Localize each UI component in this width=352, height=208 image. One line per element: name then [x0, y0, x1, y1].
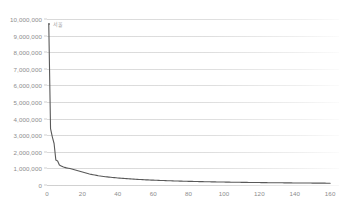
x-axis-tick-label: 40 — [114, 190, 121, 197]
y-axis-tick-label: 6,000,000 — [14, 82, 42, 89]
series-line-chart — [47, 19, 339, 185]
x-axis-tick-label: 20 — [79, 190, 86, 197]
x-axis-tick-label: 100 — [219, 190, 230, 197]
x-axis-tick-label: 120 — [254, 190, 265, 197]
plot-area: 01,000,0002,000,0003,000,0004,000,0005,0… — [47, 19, 339, 185]
y-axis-tick-label: 10,000,000 — [10, 16, 42, 23]
y-axis-tick-label: 9,000,000 — [14, 32, 42, 39]
y-axis-tick-label: 0 — [38, 182, 42, 189]
x-axis-tick-label: 160 — [325, 190, 336, 197]
y-axis-tick-label: 2,000,000 — [14, 148, 42, 155]
x-axis-tick-label: 60 — [150, 190, 157, 197]
peak-point-label: 서울 — [53, 20, 63, 27]
gridline — [47, 185, 339, 186]
x-axis-tick-label: 80 — [185, 190, 192, 197]
x-axis-tick-label: 0 — [45, 190, 49, 197]
y-axis-tick-label: 1,000,000 — [14, 165, 42, 172]
x-axis-tick-label: 140 — [289, 190, 300, 197]
chart-container: 01,000,0002,000,0003,000,0004,000,0005,0… — [0, 0, 352, 208]
y-axis-tick-label: 3,000,000 — [14, 132, 42, 139]
series-path-population — [49, 24, 330, 183]
y-axis-tick-label: 4,000,000 — [14, 115, 42, 122]
y-axis-tick-label: 7,000,000 — [14, 65, 42, 72]
y-axis-tick-label: 5,000,000 — [14, 99, 42, 106]
peak-point-marker — [48, 23, 50, 25]
y-axis-tick-label: 8,000,000 — [14, 49, 42, 56]
